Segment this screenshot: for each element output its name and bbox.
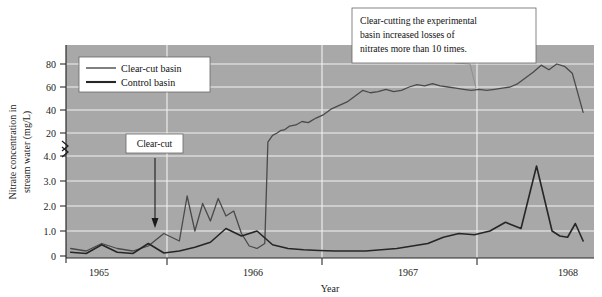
y-tick-label: 20 — [46, 128, 56, 139]
y-tick-label: 3.0 — [44, 176, 57, 187]
callout-line-1: Clear-cutting the experimental — [360, 15, 477, 26]
chart-svg: 80 60 40 20 4.0 3.0 2.0 1.0 0 1965 1966 … — [0, 0, 602, 297]
y-tick-label: 0 — [51, 251, 56, 262]
x-tick-label: 1966 — [243, 267, 263, 278]
clear-cut-label: Clear-cut — [137, 138, 173, 149]
y-tick-label: 4.0 — [44, 151, 57, 162]
y-axis-title-line1: Nitrate concentration in — [7, 105, 18, 200]
legend-label-control-basin[interactable]: Control basin — [121, 77, 175, 88]
y-axis-title-line2: stream water (mg/L) — [21, 111, 33, 193]
nitrate-concentration-figure: 80 60 40 20 4.0 3.0 2.0 1.0 0 1965 1966 … — [0, 0, 602, 297]
callout-line-2: basin increased losses of — [360, 29, 455, 40]
x-tick-label: 1968 — [558, 267, 578, 278]
x-tick-label: 1965 — [89, 267, 109, 278]
y-axis-title: Nitrate concentration in stream water (m… — [7, 105, 33, 200]
y-tick-label: 1.0 — [44, 226, 57, 237]
y-tick-label: 60 — [46, 82, 56, 93]
y-axis-tickmarks — [60, 64, 66, 256]
x-tick-label: 1967 — [398, 267, 418, 278]
y-tick-label: 40 — [46, 105, 56, 116]
x-axis-tickmarks — [66, 258, 477, 265]
legend[interactable]: Clear-cut basin Control basin — [79, 57, 210, 92]
x-axis-tick-labels: 1965 1966 1967 1968 — [89, 267, 578, 278]
callout-line-3: nitrates more than 10 times. — [360, 43, 467, 54]
y-tick-label: 80 — [46, 59, 56, 70]
legend-label-clear-cut-basin[interactable]: Clear-cut basin — [121, 63, 182, 74]
y-tick-label: 2.0 — [44, 201, 57, 212]
x-axis-title: Year — [321, 283, 340, 294]
y-axis-tick-labels: 80 60 40 20 4.0 3.0 2.0 1.0 0 — [44, 59, 57, 262]
